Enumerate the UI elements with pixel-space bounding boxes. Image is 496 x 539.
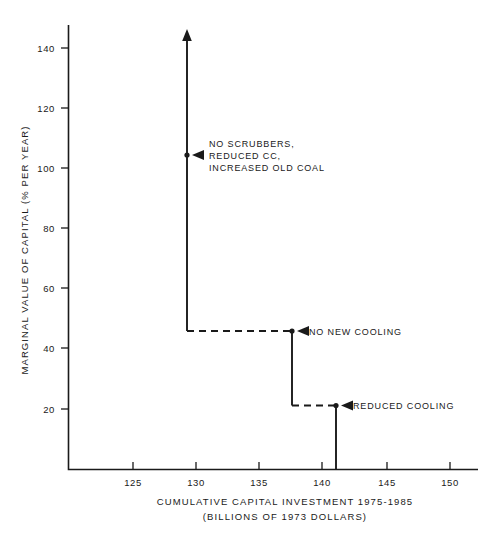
- y-tick-label-120: 120: [37, 103, 55, 114]
- annotation-no-scrubbers-line2: REDUCED CC,: [209, 151, 281, 161]
- marginal-value-of-capital-chart: 140 120 100 80 60 40 20 125 130 135 140 …: [0, 0, 496, 539]
- left-arrow-icon-no-scrubbers: [192, 150, 204, 160]
- x-tick-marks: [133, 462, 450, 470]
- x-tick-label-145: 145: [378, 477, 396, 488]
- annotation-reduced-cooling-text: REDUCED COOLING: [353, 401, 454, 411]
- y-tick-label-60: 60: [43, 283, 55, 294]
- y-tick-marks: [61, 48, 69, 409]
- y-tick-label-40: 40: [43, 343, 55, 354]
- annotation-no-new-cooling-text: NO NEW COOLING: [309, 327, 402, 337]
- step-function-series: [182, 29, 336, 469]
- x-tick-label-150: 150: [441, 477, 459, 488]
- x-tick-label-140: 140: [313, 477, 331, 488]
- data-point-marker-no-scrubbers: [184, 152, 189, 157]
- left-arrow-icon-no-new-cooling: [297, 326, 309, 336]
- annotation-no-scrubbers-line1: NO SCRUBBERS,: [209, 139, 295, 149]
- y-axis-label: MARGINAL VALUE OF CAPITAL (% PER YEAR): [19, 125, 30, 374]
- x-tick-label-135: 135: [250, 477, 268, 488]
- annotation-no-new-cooling: NO NEW COOLING: [289, 326, 402, 337]
- figure-container: 140 120 100 80 60 40 20 125 130 135 140 …: [0, 0, 496, 539]
- data-point-marker-reduced-cooling: [333, 403, 338, 408]
- x-tick-labels: 125 130 135 140 145 150: [124, 477, 459, 488]
- data-point-marker-no-new-cooling: [289, 328, 294, 333]
- y-tick-label-20: 20: [43, 404, 55, 415]
- annotation-no-scrubbers-line3: INCREASED OLD COAL: [209, 163, 325, 173]
- left-arrow-icon-reduced-cooling: [341, 401, 353, 411]
- annotation-no-scrubbers: NO SCRUBBERS, REDUCED CC, INCREASED OLD …: [184, 139, 324, 173]
- annotation-reduced-cooling: REDUCED COOLING: [333, 401, 454, 412]
- x-tick-label-125: 125: [124, 477, 142, 488]
- x-tick-label-130: 130: [187, 477, 205, 488]
- x-axis-label-line2: (BILLIONS OF 1973 DOLLARS): [203, 511, 367, 522]
- y-tick-label-80: 80: [43, 223, 55, 234]
- y-tick-label-100: 100: [37, 163, 55, 174]
- y-tick-label-140: 140: [37, 43, 55, 54]
- x-axis-label-line1: CUMULATIVE CAPITAL INVESTMENT 1975-1985: [157, 496, 413, 507]
- up-arrow-icon: [182, 29, 192, 41]
- y-tick-labels: 140 120 100 80 60 40 20: [37, 43, 55, 415]
